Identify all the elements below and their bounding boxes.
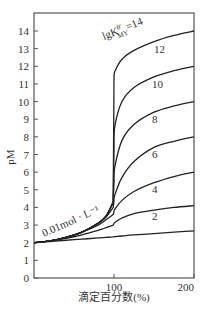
y-tick-label: 13 [18,43,30,55]
curve-label-6: 6 [152,148,158,160]
curve-label-4: 4 [152,183,158,195]
y-tick-label: 7 [24,149,30,161]
y-tick-label: 6 [24,166,30,178]
y-tick-label: 8 [24,131,30,143]
x-tick-label: 200 [178,281,195,293]
y-tick-label: 12 [18,60,29,72]
y-tick-label: 1 [24,254,30,266]
y-tick-label: 10 [18,96,30,108]
y-tick-label: 5 [24,184,30,196]
y-tick-label: 2 [24,237,30,249]
titration-chart: 01234567891011121314 100200 lgKθ'MY=1412… [0,0,202,314]
curve-label-12: 12 [154,43,165,55]
y-axis-ticks: 01234567891011121314 [18,25,38,284]
titration-curves [34,31,194,243]
curve-label-2: 2 [152,210,158,222]
y-tick-label: 9 [24,113,30,125]
y-tick-label: 11 [18,78,29,90]
curve-label-10: 10 [152,78,164,90]
curve-label-8: 8 [152,113,158,125]
curve-labels: lgKθ'MY=1412108642 [100,15,165,222]
y-axis-title: pM [4,149,16,165]
y-tick-label: 14 [18,25,30,37]
concentration-annotation: 0.01mol · L⁻¹ [40,203,101,239]
y-tick-label: 3 [24,219,30,231]
y-tick-label: 0 [24,272,30,284]
curve-label-14: lgKθ'MY=14 [100,15,146,46]
x-axis-title: 滴定百分数(%) [78,290,150,304]
y-tick-label: 4 [24,201,30,213]
